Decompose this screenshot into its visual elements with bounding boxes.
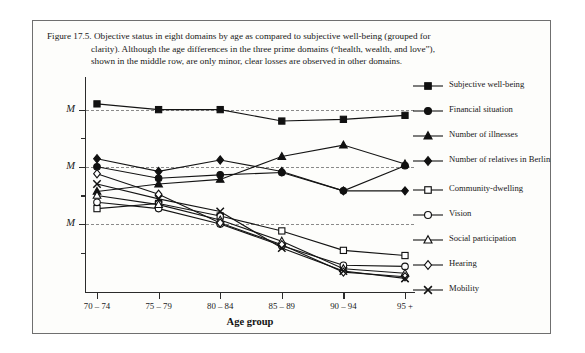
legend-label: Subjective well-being bbox=[449, 79, 541, 90]
open-circle-marker bbox=[94, 199, 101, 206]
legend-label: Social participation bbox=[449, 233, 541, 244]
open-square-marker bbox=[94, 206, 100, 212]
filled-square-marker bbox=[425, 83, 432, 90]
x-axis-title: Age group bbox=[85, 316, 415, 327]
open-square-marker bbox=[425, 187, 432, 194]
legend-label: Vision bbox=[449, 208, 541, 219]
open-triangle-marker bbox=[424, 236, 432, 243]
filled-diamond-marker bbox=[411, 154, 445, 168]
series-filled-circle bbox=[94, 162, 409, 194]
open-diamond-marker bbox=[411, 258, 445, 272]
open-square-marker bbox=[279, 228, 285, 234]
cross-x-marker bbox=[411, 283, 445, 297]
legend-label: Number of illnesses bbox=[449, 129, 541, 140]
series-line bbox=[97, 104, 405, 121]
series-filled-square bbox=[94, 101, 408, 124]
filled-triangle-marker bbox=[411, 129, 445, 143]
filled-square-marker bbox=[402, 112, 408, 118]
legend-label: Community-dwelling bbox=[449, 183, 541, 194]
open-triangle-marker bbox=[411, 233, 445, 247]
filled-diamond-marker bbox=[155, 167, 162, 175]
filled-square-marker bbox=[94, 101, 100, 107]
figure-caption: Figure 17.5. Objective status in eight d… bbox=[47, 30, 539, 68]
legend-label: Number of relatives in Berlin bbox=[449, 154, 541, 165]
filled-triangle-marker bbox=[340, 141, 348, 148]
filled-circle-marker bbox=[411, 104, 445, 118]
filled-square-marker bbox=[279, 118, 285, 124]
filled-square-marker bbox=[217, 107, 223, 113]
filled-diamond-marker bbox=[402, 187, 409, 195]
open-circle-marker bbox=[411, 208, 445, 222]
filled-diamond-marker bbox=[94, 155, 101, 163]
open-square-marker bbox=[411, 183, 445, 197]
filled-circle-marker bbox=[425, 108, 432, 115]
figure-number: Figure 17.5. bbox=[47, 31, 92, 41]
caption-line-3: shown in the middle row, are only minor,… bbox=[47, 55, 539, 68]
open-diamond-marker bbox=[424, 261, 431, 270]
filled-square-marker bbox=[411, 79, 445, 93]
caption-line-2: clarity). Although the age differences i… bbox=[47, 43, 539, 56]
open-square-marker bbox=[402, 252, 408, 258]
filled-diamond-marker bbox=[424, 157, 431, 166]
caption-line-1: Figure 17.5. Objective status in eight d… bbox=[47, 30, 539, 43]
legend-label: Mobility bbox=[449, 283, 541, 294]
filled-square-marker bbox=[156, 107, 162, 113]
series-line bbox=[97, 174, 405, 277]
figure-frame: Figure 17.5. Objective status in eight d… bbox=[32, 20, 551, 334]
legend-label: Financial situation bbox=[449, 104, 541, 115]
open-circle-marker bbox=[425, 212, 432, 219]
open-square-marker bbox=[340, 247, 346, 253]
filled-square-marker bbox=[340, 116, 346, 122]
caption-text-1: Objective status in eight domains by age… bbox=[94, 31, 431, 41]
legend-label: Hearing bbox=[449, 258, 541, 269]
series-line bbox=[97, 166, 405, 191]
filled-diamond-marker bbox=[217, 156, 224, 164]
open-diamond-marker bbox=[94, 170, 101, 178]
filled-triangle-marker bbox=[424, 132, 432, 139]
